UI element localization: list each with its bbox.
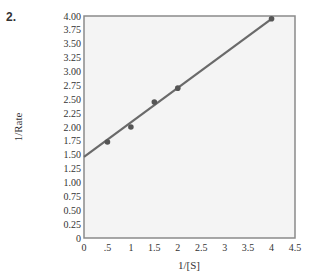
y-tick-label: 4.00 xyxy=(64,11,82,22)
x-tick-label: 3.5 xyxy=(242,242,255,253)
data-point xyxy=(152,99,158,105)
y-tick-label: 2.75 xyxy=(64,80,82,91)
x-tick-label: 2 xyxy=(175,242,180,253)
plot-area xyxy=(84,16,295,238)
data-point xyxy=(128,124,134,130)
y-tick-label: 1.75 xyxy=(64,135,82,146)
y-tick-label: 2.50 xyxy=(64,94,82,105)
y-tick-label: 2.00 xyxy=(64,122,82,133)
x-tick-label: 3 xyxy=(222,242,227,253)
x-tick-label: 2.5 xyxy=(195,242,208,253)
x-tick-label: 0 xyxy=(82,242,87,253)
y-tick-label: 3.75 xyxy=(64,24,82,35)
y-tick-label: 1.25 xyxy=(64,163,82,174)
x-axis-ticks: 0.511.522.533.544.5 xyxy=(82,242,302,253)
x-tick-label: 4 xyxy=(269,242,274,253)
y-tick-label: 0.50 xyxy=(64,205,82,216)
y-axis-ticks: 00.250.500.751.001.251.501.752.002.252.5… xyxy=(64,11,82,244)
y-tick-label: 3.25 xyxy=(64,52,82,63)
y-tick-label: 0.25 xyxy=(64,219,82,230)
y-tick-label: 1.50 xyxy=(64,149,82,160)
data-point xyxy=(175,85,181,91)
y-tick-label: 0.75 xyxy=(64,191,82,202)
x-tick-label: 1.5 xyxy=(148,242,161,253)
x-tick-label: .5 xyxy=(104,242,112,253)
y-tick-label: 2.25 xyxy=(64,108,82,119)
y-tick-label: 0 xyxy=(76,233,81,244)
y-tick-label: 3.00 xyxy=(64,66,82,77)
y-tick-label: 3.50 xyxy=(64,38,82,49)
data-point xyxy=(105,139,111,145)
y-axis-label: 1/Rate xyxy=(12,113,24,142)
x-tick-label: 4.5 xyxy=(289,242,302,253)
x-tick-label: 1 xyxy=(128,242,133,253)
x-axis-label: 1/[S] xyxy=(178,259,200,271)
data-point xyxy=(269,16,275,22)
y-tick-label: 1.00 xyxy=(64,177,82,188)
lineweaver-burk-chart: 00.250.500.751.001.251.501.752.002.252.5… xyxy=(0,0,315,279)
